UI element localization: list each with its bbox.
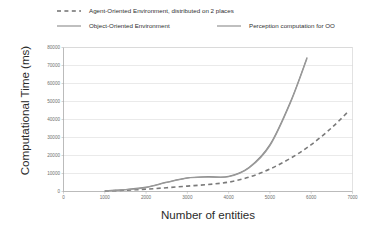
- y-tick-label: 40000: [47, 117, 60, 122]
- y-tick-label: 80000: [47, 45, 60, 50]
- gridlines: [64, 48, 353, 174]
- y-tick-label: 50000: [47, 99, 60, 104]
- plot-svg: 0100002000030000400005000060000700008000…: [0, 0, 373, 233]
- y-axis-title: Computational Time (ms): [18, 31, 31, 191]
- x-tick-label: 4000: [224, 195, 235, 200]
- series-line: [105, 57, 307, 190]
- series-line: [105, 111, 349, 191]
- x-axis-title: Number of entities: [63, 208, 353, 221]
- x-tick-labels: 01000200030004000500060007000: [62, 195, 358, 200]
- y-tick-label: 30000: [47, 135, 60, 140]
- x-tick-label: 0: [62, 195, 65, 200]
- y-tick-label: 60000: [47, 81, 60, 86]
- series-lines: [105, 57, 349, 191]
- y-tick-label: 20000: [47, 153, 60, 158]
- y-tick-label: 0: [57, 189, 60, 194]
- x-tick-label: 5000: [265, 195, 276, 200]
- x-tick-label: 2000: [141, 195, 152, 200]
- y-tick-label: 70000: [47, 63, 60, 68]
- plot-area: 0100002000030000400005000060000700008000…: [0, 0, 373, 233]
- chart-container: Agent-Oriented Environment, distributed …: [0, 0, 373, 233]
- y-tick-labels: 0100002000030000400005000060000700008000…: [47, 45, 60, 194]
- x-tick-label: 6000: [306, 195, 317, 200]
- x-tick-label: 1000: [100, 195, 111, 200]
- y-tick-label: 10000: [47, 171, 60, 176]
- x-tick-label: 3000: [182, 195, 193, 200]
- series-line: [105, 58, 307, 191]
- x-tick-label: 7000: [347, 195, 358, 200]
